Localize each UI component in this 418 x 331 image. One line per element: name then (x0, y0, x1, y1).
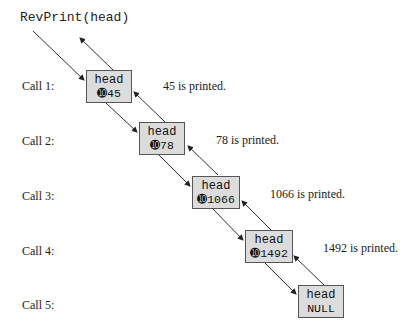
head-label: head (140, 125, 184, 139)
head-label: head (299, 288, 343, 302)
call-3-frame: head ➓1066 (192, 176, 240, 209)
head-label: head (193, 179, 239, 193)
head-value: ➓1492 (246, 247, 292, 261)
call-2-printed: 78 is printed. (216, 133, 279, 148)
call-2-label: Call 2: (22, 134, 54, 149)
call-5-frame: head NULL (298, 285, 344, 318)
call-1-label: Call 1: (22, 79, 54, 94)
head-value: NULL (299, 302, 343, 316)
call-3-label: Call 3: (22, 189, 54, 204)
call-2-frame: head ➓78 (139, 122, 185, 155)
call-4-frame: head ➓1492 (245, 230, 293, 263)
call-1-printed: 45 is printed. (163, 79, 226, 94)
head-value: ➓1066 (193, 193, 239, 207)
head-value: ➓45 (87, 87, 131, 101)
call-1-frame: head ➓45 (86, 70, 132, 103)
head-label: head (246, 233, 292, 247)
call-4-label: Call 4: (22, 244, 54, 259)
recursion-arrows (0, 0, 418, 331)
head-value: ➓78 (140, 139, 184, 153)
head-label: head (87, 73, 131, 87)
call-3-printed: 1066 is printed. (270, 187, 345, 202)
call-4-printed: 1492 is printed. (323, 241, 398, 256)
call-5-label: Call 5: (22, 298, 54, 313)
